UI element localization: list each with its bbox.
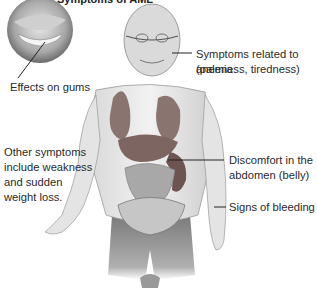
label-gums: Effects on gums <box>10 80 90 95</box>
label-other-line2: include weakness <box>4 160 92 175</box>
bottom-figure-detail <box>140 274 160 288</box>
label-abdomen-line2: abdomen (belly) <box>229 168 309 183</box>
human-figure-illustration <box>0 0 317 288</box>
label-other-line3: and sudden <box>4 175 62 190</box>
left-arm <box>202 95 226 250</box>
label-anemia-line2: (paleness, tiredness) <box>196 62 300 77</box>
gums-inset-image <box>7 0 73 78</box>
label-abdomen-line1: Discomfort in the <box>229 153 313 168</box>
label-other-line4: weight loss. <box>4 190 62 205</box>
label-bleeding: Signs of bleeding <box>229 200 315 215</box>
label-other-line1: Other symptoms <box>4 145 86 160</box>
